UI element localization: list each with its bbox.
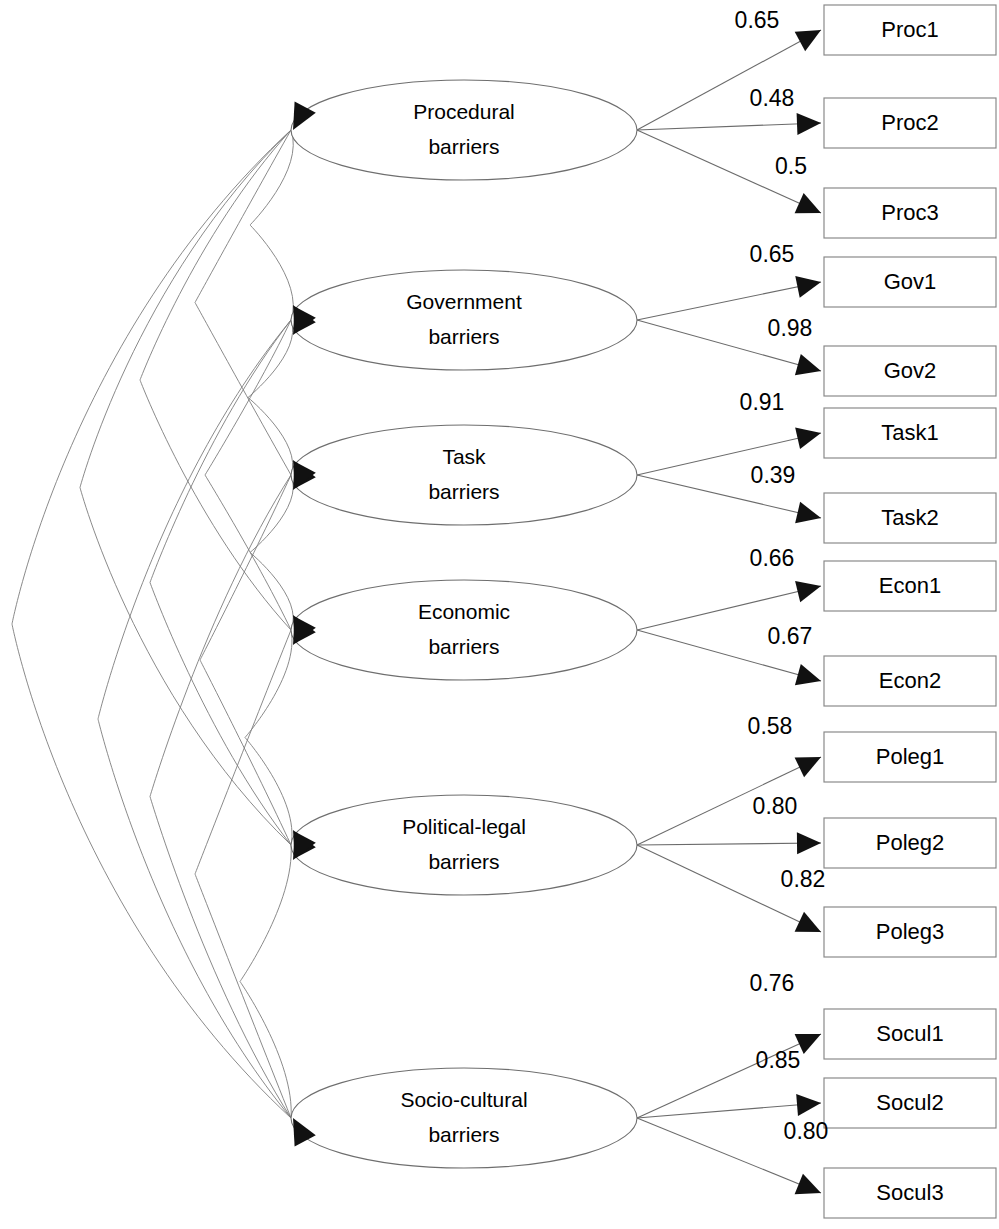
loading-value-gov1: 0.65 bbox=[750, 241, 795, 267]
correlation-arc bbox=[140, 130, 291, 630]
indicator-boxes-layer: Proc1Proc2Proc3Gov1Gov2Task1Task2Econ1Ec… bbox=[824, 5, 996, 1218]
loading-value-socul2: 0.85 bbox=[756, 1047, 801, 1073]
factor-loading-paths-layer bbox=[637, 30, 821, 1193]
indicator-label-gov1: Gov1 bbox=[884, 269, 937, 294]
latent-label-economic-line1: Economic bbox=[418, 600, 510, 623]
indicator-label-socul1: Socul1 bbox=[876, 1021, 943, 1046]
latent-ellipse-political_legal bbox=[291, 795, 637, 895]
correlation-arc bbox=[195, 630, 291, 1118]
arrowhead-proc1 bbox=[795, 20, 827, 51]
latent-label-economic-line2: barriers bbox=[428, 635, 499, 658]
latent-label-socio_cultural-line1: Socio-cultural bbox=[400, 1088, 527, 1111]
indicator-label-task2: Task2 bbox=[881, 505, 938, 530]
arrowhead-proc2 bbox=[797, 112, 822, 135]
arrowhead-gov1 bbox=[795, 271, 823, 297]
loading-value-econ2: 0.67 bbox=[768, 623, 813, 649]
indicator-label-econ1: Econ1 bbox=[879, 573, 941, 598]
indicator-label-socul2: Socul2 bbox=[876, 1090, 943, 1115]
latent-label-task-line2: barriers bbox=[428, 480, 499, 503]
loading-labels-layer: 0.650.480.50.650.980.910.390.660.670.580… bbox=[735, 7, 829, 1144]
latent-label-procedural-line1: Procedural bbox=[413, 100, 515, 123]
arrowhead-poleg3 bbox=[795, 912, 826, 942]
arrowhead-socul3 bbox=[795, 1174, 826, 1203]
loading-value-socul1: 0.76 bbox=[750, 970, 795, 996]
indicator-label-poleg1: Poleg1 bbox=[876, 744, 945, 769]
arrowhead-poleg1 bbox=[795, 747, 826, 777]
indicator-label-proc3: Proc3 bbox=[881, 200, 938, 225]
latent-label-procedural-line2: barriers bbox=[428, 135, 499, 158]
correlation-arcs-layer bbox=[12, 130, 293, 1118]
latent-label-task-line1: Task bbox=[442, 445, 486, 468]
correlation-arc bbox=[248, 320, 293, 475]
loading-value-poleg3: 0.82 bbox=[781, 866, 826, 892]
arrowhead-task1 bbox=[795, 422, 823, 449]
indicator-label-task1: Task1 bbox=[881, 420, 938, 445]
arrowhead-econ1 bbox=[795, 575, 823, 602]
correlation-arc bbox=[12, 130, 291, 1118]
correlation-arc bbox=[98, 320, 291, 1118]
latent-label-government-line2: barriers bbox=[428, 325, 499, 348]
arrowhead-poleg2 bbox=[797, 832, 821, 854]
correlation-arc bbox=[80, 130, 291, 845]
indicator-label-proc1: Proc1 bbox=[881, 17, 938, 42]
loading-value-proc1: 0.65 bbox=[735, 7, 780, 33]
loading-value-poleg1: 0.58 bbox=[748, 713, 793, 739]
sem-diagram-canvas: ProceduralbarriersGovernmentbarriersTask… bbox=[0, 0, 999, 1229]
indicator-label-proc2: Proc2 bbox=[881, 110, 938, 135]
loading-path-poleg2 bbox=[637, 843, 821, 845]
correlation-arc bbox=[250, 130, 293, 320]
latent-label-political_legal-line2: barriers bbox=[428, 850, 499, 873]
latent-ellipse-task bbox=[291, 425, 637, 525]
loading-value-poleg2: 0.80 bbox=[753, 793, 798, 819]
arrowhead-proc3 bbox=[795, 193, 826, 223]
loading-value-task1: 0.91 bbox=[740, 389, 785, 415]
loading-value-econ1: 0.66 bbox=[750, 545, 795, 571]
arrowhead-socul2 bbox=[796, 1092, 822, 1116]
arrowhead-task2 bbox=[795, 502, 823, 529]
correlation-arc bbox=[240, 845, 291, 1118]
latent-label-government-line1: Government bbox=[406, 290, 522, 313]
loading-path-proc1 bbox=[637, 30, 821, 130]
latent-label-socio_cultural-line2: barriers bbox=[428, 1123, 499, 1146]
loading-value-proc3: 0.5 bbox=[775, 153, 807, 179]
loading-value-socul3: 0.80 bbox=[784, 1118, 829, 1144]
arrowhead-econ2 bbox=[795, 664, 824, 692]
sem-diagram-svg: ProceduralbarriersGovernmentbarriersTask… bbox=[0, 0, 999, 1229]
latent-ellipse-government bbox=[291, 270, 637, 370]
correlation-arc bbox=[245, 630, 292, 845]
latent-ellipse-socio_cultural bbox=[291, 1068, 637, 1168]
latent-variables-layer: ProceduralbarriersGovernmentbarriersTask… bbox=[291, 80, 637, 1168]
indicator-label-poleg2: Poleg2 bbox=[876, 830, 945, 855]
latent-ellipse-economic bbox=[291, 580, 637, 680]
indicator-label-poleg3: Poleg3 bbox=[876, 919, 945, 944]
indicator-label-gov2: Gov2 bbox=[884, 358, 937, 383]
latent-label-political_legal-line1: Political-legal bbox=[402, 815, 526, 838]
indicator-label-econ2: Econ2 bbox=[879, 668, 941, 693]
loading-value-task2: 0.39 bbox=[751, 462, 796, 488]
loading-value-gov2: 0.98 bbox=[768, 315, 813, 341]
loading-value-proc2: 0.48 bbox=[750, 85, 795, 111]
arrowhead-gov2 bbox=[795, 354, 824, 382]
latent-ellipse-procedural bbox=[291, 80, 637, 180]
correlation-arc bbox=[250, 475, 293, 630]
indicator-label-socul3: Socul3 bbox=[876, 1180, 943, 1205]
loading-path-proc2 bbox=[637, 123, 821, 130]
correlation-arc bbox=[200, 475, 291, 845]
correlation-arc bbox=[205, 320, 291, 630]
